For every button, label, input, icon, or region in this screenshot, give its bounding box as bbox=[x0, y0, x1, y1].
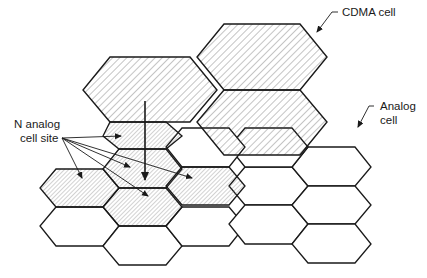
analog-leader-line bbox=[358, 106, 374, 127]
analog-cell bbox=[292, 186, 371, 224]
n-analog-label-line1: N analog bbox=[14, 118, 60, 130]
analog-cell bbox=[292, 224, 371, 263]
analog-shaded-cell bbox=[166, 167, 245, 205]
analog-cell-label-line2: cell bbox=[380, 114, 397, 126]
cdma-analog-overlay-diagram: CDMA cell Analog cell N analog cell site bbox=[0, 0, 427, 278]
cdma-cell bbox=[83, 57, 217, 122]
analog-shaded-cell bbox=[103, 188, 182, 226]
analog-shaded-cell bbox=[103, 122, 182, 149]
analog-cell-label-line1: Analog bbox=[380, 100, 416, 112]
n-analog-label-line2: cell site bbox=[20, 132, 58, 144]
cdma-cell bbox=[197, 90, 327, 155]
cdma-leader-line bbox=[317, 12, 338, 32]
cdma-cell bbox=[197, 24, 327, 90]
cdma-cell-label: CDMA cell bbox=[342, 6, 396, 18]
